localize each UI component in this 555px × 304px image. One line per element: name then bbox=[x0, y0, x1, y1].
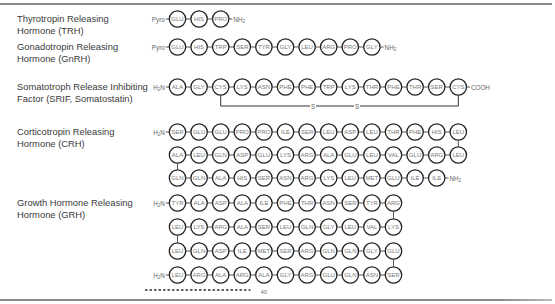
residue-label: PHE bbox=[279, 84, 291, 90]
residue-label: PRO bbox=[214, 16, 227, 22]
pyro-terminus: Pyro bbox=[152, 16, 165, 24]
residue-label: GLN bbox=[344, 272, 356, 278]
residue-label: ARG bbox=[214, 224, 227, 230]
amide-terminus: NH2 bbox=[449, 175, 461, 183]
residue-label: GLU bbox=[258, 152, 270, 158]
residue-label: HIS bbox=[194, 16, 204, 22]
residue-label: TYR bbox=[366, 200, 379, 206]
residue-label: LEU bbox=[344, 175, 356, 181]
residue-label: ARG bbox=[301, 272, 314, 278]
peptide-sequence-diagram: PyroGLUHISPRONH2PyroGLUHISTRPSERTYRGLYLE… bbox=[0, 0, 555, 304]
residue-label: SER bbox=[258, 175, 271, 181]
residue-label: PHE bbox=[279, 200, 291, 206]
residue-label: GLY bbox=[280, 44, 292, 50]
residue-label: THR bbox=[409, 84, 422, 90]
residue-label: ASP bbox=[215, 200, 227, 206]
residue-label: HIS bbox=[237, 175, 247, 181]
residue-label: ASN bbox=[366, 272, 378, 278]
residue-label: LEU bbox=[172, 248, 184, 254]
residue-label: SER bbox=[258, 224, 271, 230]
residue-label: ASN bbox=[258, 84, 270, 90]
residue-label: GLU bbox=[171, 44, 183, 50]
amide-terminus: NH2 bbox=[385, 44, 397, 52]
residue-label: GLU bbox=[344, 152, 356, 158]
residue-label: GLY bbox=[193, 84, 205, 90]
residue-label: ALA bbox=[172, 84, 183, 90]
residue-label: ALA bbox=[215, 175, 226, 181]
residue-label: GLU bbox=[387, 248, 399, 254]
residue-label: LYS bbox=[345, 84, 356, 90]
residue-label: LEU bbox=[452, 152, 464, 158]
residue-label: HIS bbox=[194, 44, 204, 50]
residue-label: ASN bbox=[279, 175, 291, 181]
residue-label: SER bbox=[344, 200, 357, 206]
residue-label: PHE bbox=[409, 129, 421, 135]
residue-label: MET bbox=[258, 248, 271, 254]
residue-label: TRP bbox=[323, 84, 335, 90]
pyro-terminus: Pyro bbox=[152, 44, 165, 52]
residue-label: LEU bbox=[452, 129, 464, 135]
residue-label: SER bbox=[171, 129, 184, 135]
residue-label: LEU bbox=[280, 224, 292, 230]
residue-label: ALA bbox=[323, 152, 334, 158]
residue-label: PRO bbox=[236, 129, 249, 135]
residue-label: LEU bbox=[366, 152, 378, 158]
residue-label: LYS bbox=[323, 175, 334, 181]
residue-label: SER bbox=[236, 44, 249, 50]
residue-label: SER bbox=[387, 272, 400, 278]
residue-label: ILE bbox=[281, 129, 290, 135]
residue-label: VAL bbox=[366, 224, 378, 230]
residue-label: GLU bbox=[193, 129, 205, 135]
residue-label: GLN bbox=[301, 224, 313, 230]
residue-label: ASP bbox=[215, 248, 227, 254]
residue-label: LYS bbox=[280, 152, 291, 158]
sulfur-atom-label: S bbox=[311, 103, 315, 110]
residue-label: LEU bbox=[193, 152, 205, 158]
residue-label: THR bbox=[387, 129, 400, 135]
residue-label: ILE bbox=[411, 175, 420, 181]
residue-label: GLU bbox=[387, 175, 399, 181]
residue-label: ARG bbox=[430, 152, 443, 158]
residue-label: PRO bbox=[344, 44, 357, 50]
residue-label: LEU bbox=[301, 44, 313, 50]
residue-label: CYS bbox=[452, 84, 464, 90]
residue-label: GLN bbox=[193, 248, 205, 254]
residue-label: CYS bbox=[215, 84, 227, 90]
residue-label: GLY bbox=[280, 272, 292, 278]
residue-label: THR bbox=[366, 84, 379, 90]
carboxyl-terminus: COOH bbox=[471, 84, 490, 91]
residue-label: GLN bbox=[323, 248, 335, 254]
residue-label: ALA bbox=[193, 200, 204, 206]
residue-label: GLY bbox=[366, 248, 378, 254]
residue-label: GLN bbox=[171, 175, 183, 181]
residue-label: ARG bbox=[322, 44, 335, 50]
residue-label: LEU bbox=[172, 272, 184, 278]
residue-label: GLU bbox=[215, 129, 227, 135]
residue-label: GLY bbox=[366, 44, 378, 50]
residue-label: ARG bbox=[236, 272, 249, 278]
residue-label: MET bbox=[366, 175, 379, 181]
residue-label: HIS bbox=[432, 129, 442, 135]
residue-label: ALA bbox=[237, 200, 248, 206]
residue-label: SER bbox=[431, 84, 444, 90]
residue-label: SER bbox=[301, 129, 314, 135]
residue-label: GLN bbox=[193, 175, 205, 181]
residue-label: LEU bbox=[344, 224, 356, 230]
residue-label: GLY bbox=[323, 224, 335, 230]
residue-label: THR bbox=[301, 200, 314, 206]
residue-label: ASP bbox=[236, 152, 248, 158]
residue-label: ARG bbox=[301, 175, 314, 181]
residue-label: ILE bbox=[259, 200, 268, 206]
residue-label: LEU bbox=[172, 224, 184, 230]
amino-terminus: H2N bbox=[153, 129, 165, 137]
residue-label: ARG bbox=[301, 248, 314, 254]
residue-label: ARG bbox=[193, 272, 206, 278]
residue-label: GLU bbox=[323, 272, 335, 278]
residue-label: LYS bbox=[194, 224, 205, 230]
residue-label: LEU bbox=[366, 129, 378, 135]
residue-label: GLU bbox=[171, 16, 183, 22]
residue-label: PRO bbox=[257, 129, 270, 135]
residue-label: GLN bbox=[344, 248, 356, 254]
residue-label: TRP bbox=[215, 44, 227, 50]
residue-label: ILE bbox=[238, 248, 247, 254]
